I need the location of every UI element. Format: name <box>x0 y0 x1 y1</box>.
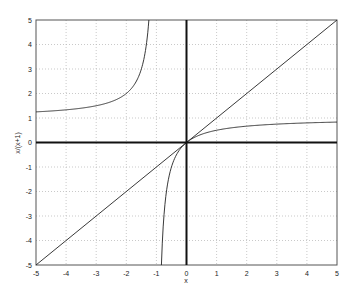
x-tick-label: -5 <box>33 270 39 277</box>
x-tick-label: 5 <box>335 270 339 277</box>
y-tick-label: 3 <box>28 66 32 73</box>
y-tick-label: 5 <box>28 17 32 24</box>
x-tick-label: -3 <box>93 270 99 277</box>
x-tick-label: 1 <box>215 270 219 277</box>
x-axis-label: x <box>184 277 188 284</box>
chart: -5-4-3-2-1012345 -5-4-3-2-1012345 x x/(x… <box>0 0 355 294</box>
x-tick-label: 2 <box>245 270 249 277</box>
x-tick-label: -4 <box>63 270 69 277</box>
y-tick-label: 2 <box>28 90 32 97</box>
y-tick-label: -3 <box>26 213 32 220</box>
x-tick-label: 4 <box>305 270 309 277</box>
y-tick-label: 4 <box>28 41 32 48</box>
y-tick-labels: -5-4-3-2-1012345 <box>26 17 32 269</box>
y-axis-label: x/(x+1) <box>14 132 22 154</box>
x-tick-label: -2 <box>123 270 129 277</box>
curve-left-branch <box>36 20 149 112</box>
y-tick-label: 0 <box>28 139 32 146</box>
x-tick-label: -1 <box>153 270 159 277</box>
curve-right-branch <box>161 122 337 265</box>
y-tick-label: -5 <box>26 262 32 269</box>
y-tick-label: -1 <box>26 164 32 171</box>
x-tick-labels: -5-4-3-2-1012345 <box>33 270 339 277</box>
y-tick-label: 1 <box>28 115 32 122</box>
series-lines <box>36 20 337 265</box>
y-tick-label: -4 <box>26 237 32 244</box>
y-tick-label: -2 <box>26 188 32 195</box>
x-tick-label: 3 <box>275 270 279 277</box>
x-tick-label: 0 <box>185 270 189 277</box>
